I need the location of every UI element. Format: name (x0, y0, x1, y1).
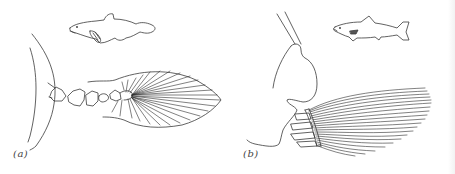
fin-rays (309, 88, 431, 156)
page-edge-shadow (448, 0, 455, 174)
body-wall-outline (28, 34, 55, 150)
coelacanth-icon (70, 14, 155, 43)
panel-label-b: (b) (243, 148, 259, 159)
panel-label-a: (a) (13, 148, 28, 159)
ray-fin-drawing (225, 0, 455, 174)
panel-a-lobe-fin: (a) (0, 0, 228, 174)
body-outline (247, 12, 317, 146)
fin-rays (112, 71, 220, 125)
bony-axis (48, 83, 133, 106)
panel-b-ray-fin: (b) (225, 0, 455, 174)
lobe-fin-drawing (0, 0, 228, 174)
salmon-icon (334, 16, 410, 41)
